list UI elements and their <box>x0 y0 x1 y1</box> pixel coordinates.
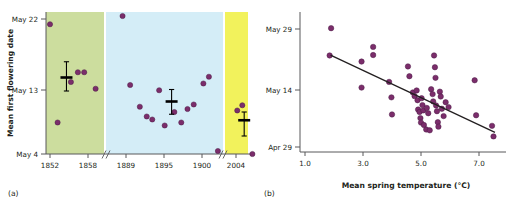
data-point <box>432 65 437 70</box>
data-point <box>75 70 80 75</box>
data-point <box>93 86 98 91</box>
data-point <box>437 89 442 94</box>
data-points-group <box>327 25 496 139</box>
x-tick-label: 5.0 <box>415 159 427 168</box>
data-point <box>206 74 211 79</box>
data-point <box>438 94 443 99</box>
regression-line <box>331 55 495 132</box>
data-point <box>150 117 155 122</box>
data-point <box>359 85 364 90</box>
panel-a-plot: May 22 May 13 May 4 1852 1858 1889 1895 … <box>0 0 258 205</box>
panel-a: May 22 May 13 May 4 1852 1858 1889 1895 … <box>0 0 258 205</box>
data-point <box>235 108 240 113</box>
y-tick-label: May 14 <box>266 86 293 95</box>
band-green <box>46 12 104 154</box>
data-point <box>414 88 419 93</box>
data-point <box>328 25 333 30</box>
data-point <box>370 52 375 57</box>
data-point <box>157 88 162 93</box>
y-tick-label: May 22 <box>12 15 38 24</box>
data-point <box>491 134 496 139</box>
data-point <box>128 82 133 87</box>
data-point <box>389 95 394 100</box>
x-axis-ticks: 1852 1858 1889 1895 1900 2004 <box>41 154 246 170</box>
data-point <box>405 64 410 69</box>
data-point <box>144 114 149 119</box>
panel-tag-a: (a) <box>8 189 19 198</box>
data-point <box>489 123 494 128</box>
data-point <box>424 105 429 110</box>
x-axis-title: Mean spring temperature (°C) <box>342 181 471 190</box>
data-point <box>250 151 255 156</box>
y-axis-title: Mean first flowering date <box>6 29 15 137</box>
data-point <box>201 81 206 86</box>
data-point <box>441 113 446 118</box>
data-point <box>359 59 364 64</box>
data-point <box>443 100 448 105</box>
data-point <box>431 53 436 58</box>
data-point <box>433 75 438 80</box>
panel-tag-b: (b) <box>264 189 275 198</box>
y-tick-label: May 13 <box>12 86 38 95</box>
y-axis-ticks: May 22 May 13 May 4 <box>12 15 46 159</box>
x-tick-label: 7.0 <box>473 159 485 168</box>
data-point <box>82 70 87 75</box>
data-point <box>240 103 245 108</box>
y-axis-ticks: May 29 May 14 Apr 29 <box>266 25 300 152</box>
data-point <box>47 22 52 27</box>
y-tick-label: May 4 <box>16 150 38 159</box>
data-point <box>55 120 60 125</box>
data-point <box>427 128 432 133</box>
data-point <box>472 78 477 83</box>
data-point <box>473 113 478 118</box>
data-point <box>436 124 441 129</box>
x-tick-label: 1858 <box>79 161 98 170</box>
data-point <box>428 87 433 92</box>
data-point <box>137 104 142 109</box>
y-tick-label: Apr 29 <box>268 143 292 152</box>
data-point <box>185 106 190 111</box>
data-point <box>407 74 412 79</box>
panel-b: May 29 May 14 Apr 29 1.0 3.0 5.0 7.0 Mea… <box>258 0 516 205</box>
x-tick-label: 1852 <box>41 161 59 170</box>
panel-b-plot: May 29 May 14 Apr 29 1.0 3.0 5.0 7.0 Mea… <box>258 0 516 205</box>
data-point <box>68 79 73 84</box>
x-tick-label: 1.0 <box>299 159 311 168</box>
figure-container: May 22 May 13 May 4 1852 1858 1889 1895 … <box>0 0 516 205</box>
x-tick-label: 1895 <box>155 161 173 170</box>
data-point <box>430 91 435 96</box>
x-tick-label: 1889 <box>117 161 136 170</box>
y-tick-label: May 29 <box>266 25 293 34</box>
data-point <box>389 112 394 117</box>
data-point <box>120 13 125 18</box>
data-point <box>179 120 184 125</box>
data-point <box>215 148 220 153</box>
data-point <box>426 111 431 116</box>
data-point <box>162 123 167 128</box>
x-tick-label: 1900 <box>193 161 212 170</box>
data-point <box>434 108 439 113</box>
data-point <box>191 102 196 107</box>
x-tick-label: 3.0 <box>357 159 369 168</box>
x-axis-ticks: 1.0 3.0 5.0 7.0 <box>299 152 485 168</box>
data-point <box>370 44 375 49</box>
x-tick-label: 2004 <box>227 161 246 170</box>
